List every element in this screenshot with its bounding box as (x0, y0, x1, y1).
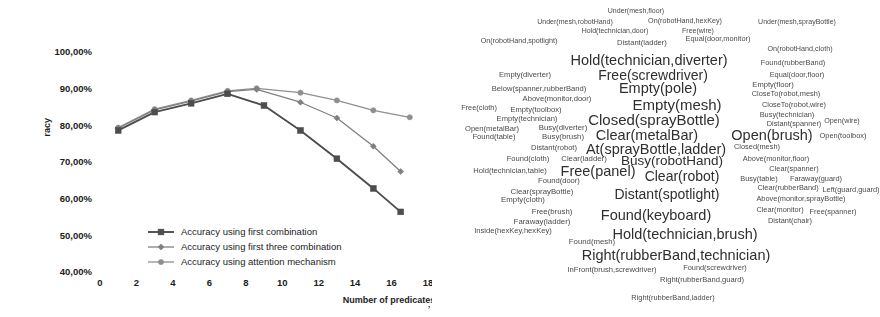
word-cloud-term: Right(rubberBand,ladder) (631, 294, 714, 301)
word-cloud-term: Distant(chair) (768, 217, 812, 224)
word-cloud-term: InFront(brush,screwdriver) (567, 266, 656, 274)
word-cloud-term: Closed(sprayBottle) (588, 112, 720, 127)
y-axis-tick-label: 70,00% (60, 156, 93, 167)
word-cloud-term: Clear(robot) (645, 169, 720, 183)
accuracy-line-chart: 40,00%50,00%60,00%70,00%80,00%90,00%100,… (0, 0, 432, 317)
data-point-marker (297, 99, 303, 105)
word-cloud-term: Found(mesh) (569, 239, 615, 247)
word-cloud-term: Faraway(guard) (790, 175, 842, 182)
x-axis-tick-label: 4 (170, 277, 176, 288)
word-cloud-term: Free(brush) (532, 209, 573, 217)
word-cloud-term: Empty(cloth) (501, 197, 545, 205)
word-cloud-term: Distant(spotlight) (614, 187, 719, 201)
word-cloud-term: Found(keyboard) (601, 208, 711, 223)
data-point-marker (334, 156, 340, 162)
word-cloud-term: Right(rubberBand,guard) (660, 276, 744, 284)
word-cloud-term: Clear(ladder) (561, 155, 607, 163)
series-line (118, 89, 400, 171)
word-cloud-term: Empty(toolbox) (510, 106, 561, 114)
word-cloud-term: Empty(technician) (497, 115, 558, 123)
legend-label: Accuracy using attention mechanism (181, 256, 336, 267)
data-point-marker (398, 209, 404, 215)
word-cloud-term: Hold(technician,brush) (612, 227, 757, 242)
word-cloud-term: Faraway(ladder) (514, 218, 571, 226)
word-cloud-term: Equal(door,floor) (770, 72, 825, 79)
x-axis-tick-label: 18 (423, 277, 432, 288)
word-cloud-term: Busy(brush) (542, 133, 584, 141)
word-cloud-term: CloseTo(robot,mesh) (752, 91, 821, 98)
legend-label: Accuracy using first combination (181, 226, 317, 237)
word-cloud-term: Empty(pole) (619, 81, 697, 96)
data-point-marker (371, 108, 376, 113)
y-axis-tick-label: 50,00% (60, 230, 93, 241)
y-axis-tick-label: 80,00% (60, 120, 93, 131)
data-point-marker (152, 109, 158, 115)
word-cloud-term: Left(guard,guard) (822, 186, 879, 193)
x-axis-tick-label: 2 (134, 277, 139, 288)
word-cloud-term: Clear(spanner) (769, 165, 818, 172)
word-cloud-term: Busy(technician) (760, 111, 815, 118)
word-cloud-term: Busy(diverter) (539, 124, 588, 132)
legend-label: Accuracy using first three combination (181, 241, 342, 252)
word-cloud-term: Empty(diverter) (499, 72, 551, 80)
word-cloud-term: Open(wire) (824, 117, 860, 124)
data-point-marker (115, 128, 121, 134)
data-point-marker (158, 229, 164, 235)
y-axis-tick-label: 60,00% (60, 193, 93, 204)
word-cloud-term: Found(table) (472, 133, 515, 141)
word-cloud-term: Above(monitor,floor) (743, 156, 810, 163)
predicate-word-cloud: Under(mesh,floor)Under(mesh,robotHand)On… (432, 0, 864, 317)
word-cloud-term: Empty(floor) (752, 81, 793, 89)
x-axis-tick-label: 6 (207, 277, 212, 288)
x-axis-tick-label: 8 (243, 277, 248, 288)
x-axis-tick-label: 10 (277, 277, 288, 288)
word-cloud-term: Clear(rubberBand) (757, 185, 818, 192)
y-axis-tick-label: 100,00% (54, 46, 92, 57)
data-point-marker (225, 91, 231, 97)
data-point-marker (334, 98, 339, 103)
data-point-marker (298, 128, 304, 134)
word-cloud-term: Under(mesh,sprayBottle) (758, 17, 836, 24)
chart-svg: 40,00%50,00%60,00%70,00%80,00%90,00%100,… (0, 0, 432, 317)
word-cloud-term: Distant(ladder) (617, 39, 667, 47)
y-axis-title: racy (42, 118, 52, 137)
x-axis-tick-label: 16 (386, 277, 397, 288)
word-cloud-term: Hold(technician,door) (582, 26, 649, 33)
word-cloud-term: Under(mesh,floor) (608, 7, 664, 14)
word-cloud-term: Found(door) (538, 177, 580, 185)
word-cloud-term: On(robotHand,hexKey) (648, 17, 722, 24)
word-cloud-term: Above(monitor,sprayBottle) (756, 195, 845, 202)
word-cloud-term: Found(cloth) (507, 156, 550, 164)
data-point-marker (370, 186, 376, 192)
word-cloud-term: Free(spanner) (810, 208, 857, 215)
word-cloud-term: Empty(mesh) (632, 96, 721, 111)
word-cloud-term: Right(rubberBand,technician) (582, 248, 771, 263)
data-point-marker (261, 103, 267, 109)
word-cloud-term: Below(spanner,rubberBand) (492, 85, 587, 93)
word-cloud-term: Clear(monitor) (756, 206, 803, 213)
word-cloud-term: Inside(hexKey,hexKey) (474, 228, 552, 236)
word-cloud-term: Clear(metalBar) (596, 127, 698, 142)
x-axis-tick-label: 0 (97, 277, 102, 288)
word-cloud-term: Hold(technician,table) (473, 168, 546, 176)
y-axis-tick-label: 90,00% (60, 83, 93, 94)
word-cloud-term: Closed(mesh) (734, 144, 780, 151)
word-cloud-term: Open(toolbox) (820, 133, 867, 140)
data-point-marker (158, 259, 163, 264)
word-cloud-term: Under(mesh,robotHand) (537, 17, 612, 24)
word-cloud-term: Distant(robot) (531, 144, 577, 152)
word-cloud-term: Free(wire) (682, 26, 714, 33)
x-axis-title: Number of predicates (343, 295, 432, 305)
word-cloud-term: Equal(door,monitor) (686, 36, 751, 43)
word-cloud-term: Free(cloth) (461, 104, 497, 111)
data-point-marker (188, 100, 194, 106)
data-point-marker (158, 244, 164, 250)
word-cloud-term: Open(brush) (731, 127, 812, 142)
y-axis-tick-label: 40,00% (60, 266, 93, 277)
word-cloud-term: Hold(technician,diverter) (570, 53, 727, 68)
word-cloud-term: On(robotHand,spotlight) (481, 38, 558, 45)
word-cloud-term: Found(screwdriver) (683, 264, 747, 271)
word-cloud-term: Busy(robotHand) (621, 154, 723, 168)
series-line (118, 94, 400, 212)
